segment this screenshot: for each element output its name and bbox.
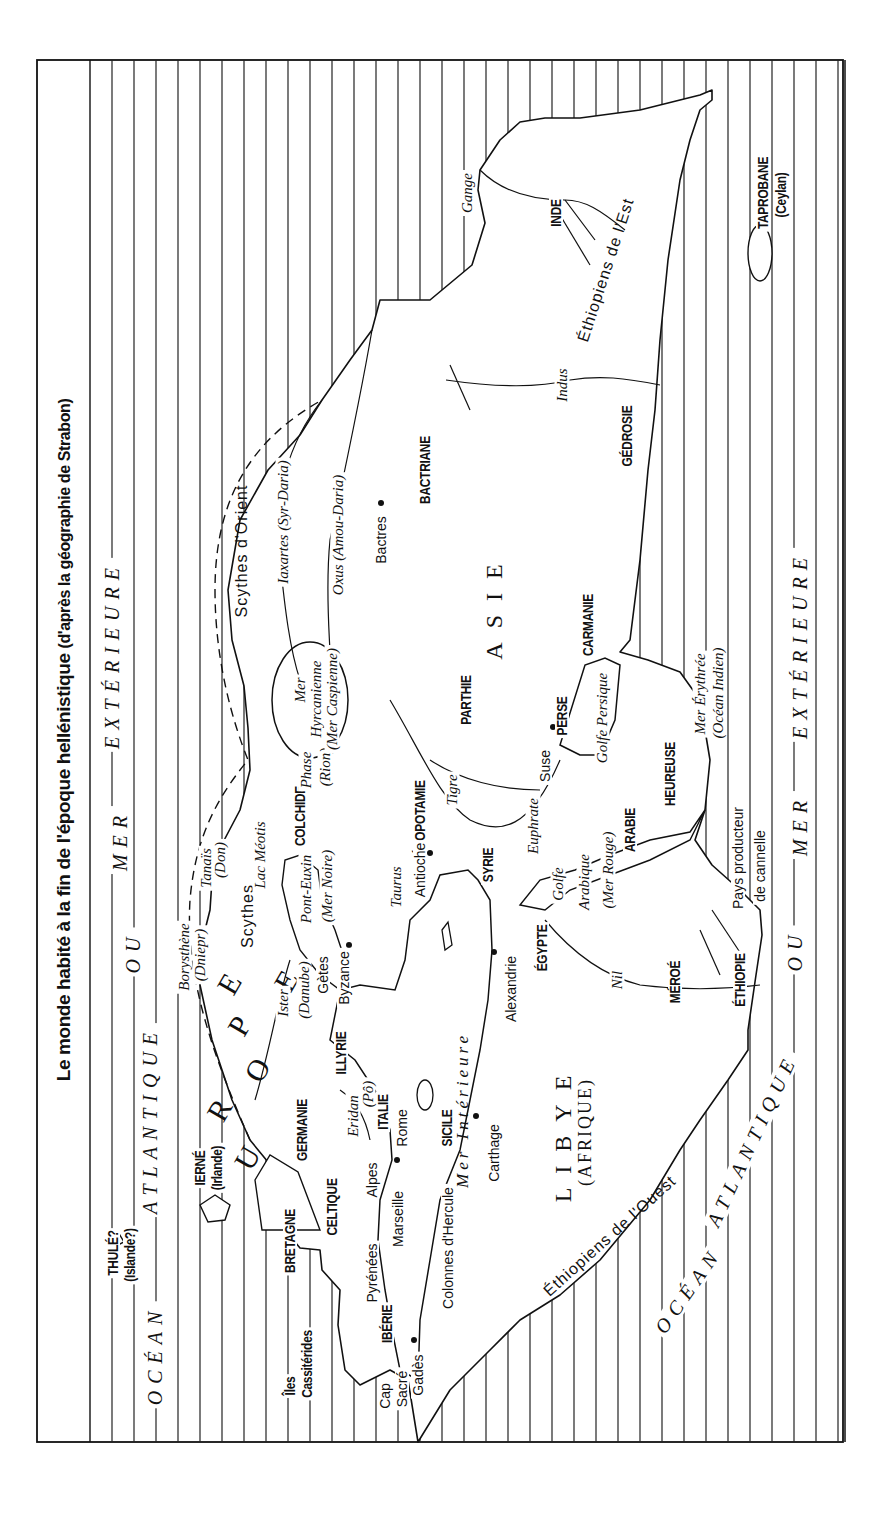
ocean-north-mer: MER — [110, 806, 130, 874]
ocean-north-exterieure: EXTÉRIEURE — [102, 558, 122, 752]
label-asie: ASIE — [482, 550, 506, 659]
label-pyrenees: Pyrénées — [365, 1240, 379, 1305]
label-irlande: (Irlande) — [210, 1143, 224, 1193]
label-afrique: (AFRIQUE) — [576, 1078, 594, 1186]
label-pays-producteur: Pays producteur — [731, 804, 745, 912]
label-ierne: IERNÉ — [193, 1148, 207, 1188]
label-germanie: GERMANIE — [295, 1096, 309, 1163]
label-mer-hyrcanienne-1: Mer — [293, 675, 308, 706]
label-tigre: Tigre — [445, 771, 460, 808]
label-gedrosie: GÉDROSIE — [620, 403, 634, 469]
label-carthage: Carthage — [487, 1121, 501, 1185]
ocean-south-mer: MER — [790, 791, 810, 859]
label-gades: Gadès — [411, 1351, 425, 1398]
label-perse: PERSE — [555, 694, 569, 738]
map-title: Le monde habité à la fin de l'époque hel… — [54, 399, 73, 1082]
label-don: (Don) — [213, 839, 228, 881]
label-meroe: MÉROÉ — [668, 958, 682, 1005]
label-libye: LIBYE — [551, 1062, 575, 1203]
label-syrie: SYRIE — [481, 845, 495, 885]
label-ceylan: (Ceylan) — [774, 170, 788, 220]
label-mer-noire: (Mer Noire) — [320, 847, 335, 925]
label-carmanie: CARMANIE — [581, 591, 595, 658]
label-antioche: Antioche — [413, 840, 427, 900]
label-ister: Ister — [276, 986, 291, 1020]
label-taprobane: TAPROBANE — [756, 154, 770, 231]
label-scythes: Scythes — [240, 884, 256, 948]
label-colchide: COLCHIDE — [293, 783, 307, 848]
label-bactriane: BACTRIANE — [418, 434, 432, 507]
label-nil: Nil — [610, 968, 625, 992]
label-rome: Rome — [395, 1106, 409, 1149]
label-phase: Phase — [299, 749, 314, 792]
sea-hatching — [112, 60, 838, 1442]
label-colonnes: Colonnes d'Hercule — [441, 1184, 455, 1312]
label-bretagne: BRETAGNE — [283, 1207, 297, 1276]
label-mer-interieure: Mer Intérieure — [454, 1032, 471, 1188]
label-arabie: ARABIE — [623, 805, 637, 854]
map-title-main: Le monde habité à la fin de l'époque hel… — [53, 653, 74, 1081]
label-cassiterides: Cassitérides — [300, 1328, 314, 1401]
label-iaxartes: Iaxartes (Syr-Daria) — [276, 457, 291, 586]
label-taurus: Taurus — [389, 863, 404, 910]
ierne-island — [200, 1195, 230, 1222]
label-inde: INDE — [549, 197, 563, 230]
label-islande: (Islande?) — [123, 1226, 137, 1285]
label-indus: Indus — [555, 365, 570, 404]
label-alexandrie: Alexandrie — [504, 953, 518, 1025]
label-heureuse: HEUREUSE — [663, 739, 677, 808]
label-ocean-indien: (Océan Indien) — [711, 644, 726, 741]
ocean-north-atlantique: ATLANTIQUE — [140, 1023, 160, 1217]
label-golfe-arabique-1: Golfe — [551, 864, 566, 903]
label-oxus: Oxus (Amou-Daria) — [331, 472, 346, 598]
label-eridan: Eridan — [346, 1092, 361, 1140]
label-lac-meotis: Lac Méotis — [253, 818, 268, 891]
label-danube: (Danube) — [297, 958, 312, 1021]
ocean-south-ou: OU — [785, 926, 805, 975]
label-iberie: IBÉRIE — [380, 1302, 394, 1345]
label-illyrie: ILLYRIE — [334, 1029, 348, 1077]
label-italie: ITALIE — [376, 1092, 390, 1132]
label-marseille: Marseille — [391, 1188, 405, 1250]
ocean-north-ou: OU — [123, 928, 143, 977]
label-scythes-orient: Scythes d'Orient — [234, 485, 250, 618]
ocean-south-exterieure: EXTÉRIEURE — [790, 548, 810, 742]
label-gange: Gange — [460, 170, 475, 216]
label-cap: Cap — [378, 1380, 392, 1412]
label-mer-hyrcanienne-2: Hyrcanienne — [309, 658, 324, 741]
label-borysthene: Borysthène — [177, 920, 192, 993]
label-golfe-persique: Golfe Persique — [595, 670, 610, 766]
ocean-north-ocean: OCÉAN — [145, 1302, 165, 1409]
label-po: (Pô) — [361, 1078, 376, 1111]
label-sacre: Sacré — [395, 1368, 409, 1411]
label-golfe-arabique-3: (Mer Rouge) — [601, 828, 616, 911]
label-parthie: PARTHIE — [459, 673, 473, 728]
label-byzance: Byzance — [337, 948, 351, 1008]
taprobane-island — [748, 225, 772, 281]
label-euphrate: Euphrate — [526, 795, 541, 857]
label-mer-erythree: Mer Érythrée — [693, 650, 708, 737]
label-iles: Îles — [283, 1374, 297, 1398]
label-getes: Gètes — [316, 953, 330, 996]
label-celtique: CELTIQUE — [325, 1176, 339, 1238]
label-pont-euxin: Pont-Euxin — [299, 852, 314, 926]
label-suse: Suse — [538, 747, 552, 785]
map-title-subtitle: (d'après la géographie de Strabon) — [56, 399, 73, 649]
label-golfe-arabique-2: Arabique — [577, 851, 592, 913]
sicile-island — [417, 1080, 433, 1110]
label-thule: THULÉ? — [106, 1228, 120, 1279]
label-egypte: ÉGYPTE — [535, 922, 549, 974]
label-de-cannelle: de cannelle — [753, 827, 767, 905]
label-mer-hyrcanienne-3: (Mer Caspienne) — [325, 645, 340, 753]
label-bactres: Bactres — [374, 513, 388, 566]
label-dniepr: (Dniepr) — [193, 926, 208, 985]
label-ethiopie: ÉTHIOPIE — [733, 951, 747, 1010]
label-alpes: Alpes — [365, 1159, 379, 1200]
